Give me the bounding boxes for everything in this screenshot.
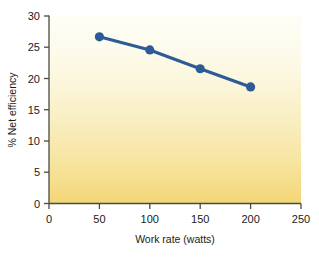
data-point [246, 82, 255, 91]
x-tick-label: 0 [46, 213, 52, 225]
y-tick-label: 10 [28, 135, 40, 147]
y-tick-label: 0 [34, 198, 40, 210]
x-tick-label: 250 [292, 213, 310, 225]
x-tick-label: 100 [141, 213, 159, 225]
x-tick-label: 200 [241, 213, 259, 225]
x-axis [49, 204, 301, 210]
line-chart: 30 25 20 15 10 5 0 0 50 100 150 200 250 … [0, 0, 319, 259]
y-tick-label: 30 [28, 10, 40, 22]
data-point [145, 45, 154, 54]
data-point [196, 64, 205, 73]
y-tick-labels: 30 25 20 15 10 5 0 [28, 10, 40, 210]
y-tick-label: 15 [28, 104, 40, 116]
data-point [95, 32, 104, 41]
y-tick-label: 25 [28, 41, 40, 53]
x-axis-title: Work rate (watts) [135, 233, 215, 245]
chart-container: 30 25 20 15 10 5 0 0 50 100 150 200 250 … [0, 0, 319, 259]
y-tick-label: 5 [34, 166, 40, 178]
y-axis-title: % Net efficiency [6, 72, 18, 148]
x-tick-labels: 0 50 100 150 200 250 [46, 213, 310, 225]
x-tick-label: 50 [93, 213, 105, 225]
x-tick-label: 150 [191, 213, 209, 225]
y-tick-label: 20 [28, 73, 40, 85]
y-axis [44, 16, 49, 204]
plot-background [49, 16, 301, 204]
